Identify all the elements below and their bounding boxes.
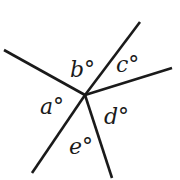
angle-label-b: b°	[70, 59, 95, 81]
angle-label-c: c°	[116, 54, 139, 76]
angle-label-e: e°	[69, 136, 93, 158]
angle-label-a: a°	[40, 96, 64, 118]
angle-label-d: d°	[104, 106, 129, 128]
angle-diagram: a° b° c° d° e°	[0, 0, 180, 180]
